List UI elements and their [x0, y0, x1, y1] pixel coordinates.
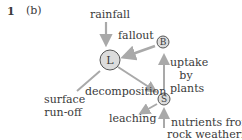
fallout-arrow: [124, 46, 155, 57]
rainfall-label: rainfall: [90, 9, 130, 20]
node-biomass-label: B: [157, 37, 169, 47]
uptake-label-line1: uptake: [170, 57, 202, 68]
surface-runoff-label-line2: run-off: [44, 107, 82, 118]
fallout-label: fallout: [118, 30, 154, 41]
uptake-label-line3: plants: [170, 83, 202, 94]
node-litter-label: L: [100, 55, 120, 66]
uptake-label-line2: by: [170, 70, 202, 81]
nutrients-label-line1: nutrients from: [171, 117, 242, 128]
decomposition-label: decomposition: [85, 86, 166, 97]
surface-runoff-label-line1: surface: [44, 94, 82, 105]
nutrients-label-line2: rock weathering: [167, 129, 242, 140]
leaching-label: leaching: [109, 113, 156, 124]
